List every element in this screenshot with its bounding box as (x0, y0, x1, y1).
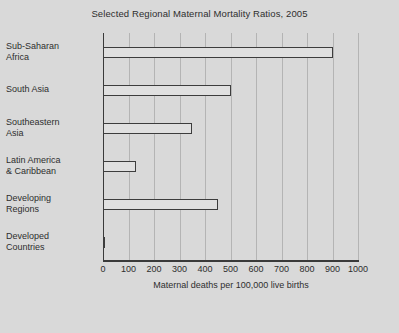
bar (103, 123, 192, 134)
category-label-line: South Asia (3, 84, 99, 96)
category-label-line: Countries (3, 242, 99, 254)
category-label: SoutheasternAsia (3, 117, 99, 140)
gridline-200 (154, 33, 155, 261)
x-tick-label: 100 (121, 264, 136, 274)
bar (103, 85, 231, 96)
plot-area (103, 33, 358, 261)
x-tick-label: 800 (299, 264, 314, 274)
gridline-900 (333, 33, 334, 261)
chart-figure: Selected Regional Maternal Mortality Rat… (0, 0, 399, 333)
category-label-line: Southeastern (3, 117, 99, 129)
category-label: Latin America& Caribbean (3, 155, 99, 178)
category-label: South Asia (3, 84, 99, 96)
x-tick-label: 600 (248, 264, 263, 274)
category-label-line: Developed (3, 231, 99, 243)
gridline-800 (307, 33, 308, 261)
gridline-500 (231, 33, 232, 261)
bar (103, 199, 218, 210)
category-label: DevelopedCountries (3, 231, 99, 254)
category-label: DevelopingRegions (3, 193, 99, 216)
chart-title: Selected Regional Maternal Mortality Rat… (0, 8, 399, 19)
category-label-line: Asia (3, 128, 99, 140)
x-tick-label: 400 (197, 264, 212, 274)
gridline-300 (180, 33, 181, 261)
gridline-600 (256, 33, 257, 261)
category-label: Sub-SaharanAfrica (3, 41, 99, 64)
category-label-line: Latin America (3, 155, 99, 167)
bar (103, 237, 105, 248)
x-axis-title: Maternal deaths per 100,000 live births (103, 280, 359, 290)
gridline-400 (205, 33, 206, 261)
bar (103, 47, 333, 58)
x-tick-label: 300 (172, 264, 187, 274)
x-tick-label: 500 (223, 264, 238, 274)
category-label-line: Sub-Saharan (3, 41, 99, 53)
gridline-1000 (358, 33, 359, 261)
category-label-line: Africa (3, 52, 99, 64)
x-tick-label: 0 (100, 264, 105, 274)
category-axis-labels: Sub-SaharanAfricaSouth AsiaSoutheasternA… (0, 33, 99, 261)
category-label-line: Developing (3, 193, 99, 205)
x-tick-label: 200 (146, 264, 161, 274)
x-tick-label: 700 (274, 264, 289, 274)
gridline-100 (129, 33, 130, 261)
x-tick-label: 900 (325, 264, 340, 274)
x-tick-label: 1000 (348, 264, 368, 274)
category-label-line: Regions (3, 204, 99, 216)
x-axis-line (103, 260, 359, 262)
gridline-700 (282, 33, 283, 261)
gridline-0 (103, 33, 104, 261)
category-label-line: & Caribbean (3, 166, 99, 178)
bar (103, 161, 136, 172)
